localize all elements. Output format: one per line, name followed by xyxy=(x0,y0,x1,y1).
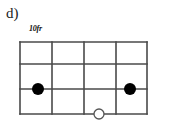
chord-diagram xyxy=(0,0,170,130)
figure-container: d) 10fr xyxy=(0,0,170,130)
filled-note-marker-1 xyxy=(32,83,44,95)
fretboard-grid xyxy=(20,42,147,114)
chord-diagram-svg xyxy=(0,0,170,130)
open-note-marker-3 xyxy=(94,109,104,119)
filled-note-marker-2 xyxy=(124,83,136,95)
